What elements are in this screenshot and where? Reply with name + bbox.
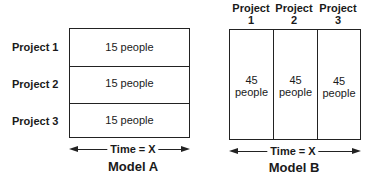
model-b-box: 45 people 45 people 45 people xyxy=(229,29,361,140)
model-b-col-header-project-1-line1: Project xyxy=(229,2,273,14)
model-a-value-project-2: 15 people xyxy=(105,77,153,89)
model-a-row-project-2: 15 people xyxy=(70,66,189,103)
model-b-value-project-1-unit: people xyxy=(230,86,273,98)
model-a-row-label-project-3: Project 3 xyxy=(12,115,68,127)
model-b-value-project-3: 45 people xyxy=(318,75,360,99)
model-b-value-project-2: 45 people xyxy=(274,74,317,98)
model-b-col-header-project-3: Project 3 xyxy=(316,2,360,26)
model-b-column-project-3: 45 people xyxy=(317,30,360,139)
model-b-column-project-2: 45 people xyxy=(273,30,317,139)
model-b-col-header-project-3-line2: 3 xyxy=(316,14,360,26)
model-b-value-project-2-number: 45 xyxy=(274,74,317,86)
model-a-value-project-3: 15 people xyxy=(105,114,153,126)
model-b-time-label: Time = X xyxy=(267,145,318,157)
model-b-col-header-project-1: Project 1 xyxy=(229,2,273,26)
model-a-row-project-1: 15 people xyxy=(70,29,189,66)
model-b-col-header-project-2-line1: Project xyxy=(272,2,316,14)
model-b-col-header-project-2: Project 2 xyxy=(272,2,316,26)
model-b-value-project-2-unit: people xyxy=(274,86,317,98)
arrow-right-icon xyxy=(181,146,190,152)
arrow-left-icon xyxy=(229,148,238,154)
model-a-row-label-project-1: Project 1 xyxy=(12,41,68,53)
model-b-value-project-1: 45 people xyxy=(230,74,273,98)
model-a-time-axis: Time = X xyxy=(69,143,190,155)
model-b-value-project-3-number: 45 xyxy=(318,75,360,87)
model-b-value-project-1-number: 45 xyxy=(230,74,273,86)
model-b-column-project-1: 45 people xyxy=(230,30,273,139)
model-a-time-label: Time = X xyxy=(107,143,158,155)
model-a-box: 15 people 15 people 15 people xyxy=(69,28,190,138)
model-b-col-header-project-2-line2: 2 xyxy=(272,14,316,26)
model-b-time-axis: Time = X xyxy=(229,145,361,157)
model-b-title: Model B xyxy=(229,160,359,175)
arrow-left-icon xyxy=(69,146,78,152)
model-b-value-project-3-unit: people xyxy=(318,87,360,99)
model-a-row-project-3: 15 people xyxy=(70,103,189,139)
arrow-right-icon xyxy=(352,148,361,154)
model-b-col-header-project-1-line2: 1 xyxy=(229,14,273,26)
model-b-col-header-project-3-line1: Project xyxy=(316,2,360,14)
model-a-title: Model A xyxy=(69,159,197,174)
model-a-row-label-project-2: Project 2 xyxy=(12,78,68,90)
model-a-value-project-1: 15 people xyxy=(105,41,153,53)
